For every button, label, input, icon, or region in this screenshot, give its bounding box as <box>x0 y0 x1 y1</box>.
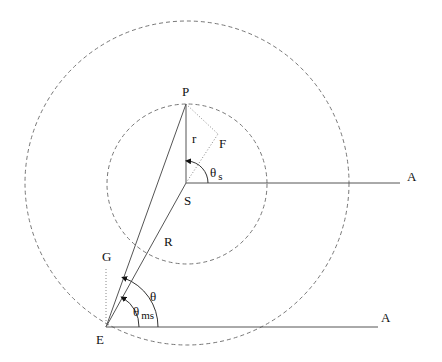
label-e: E <box>96 333 104 346</box>
label-s: S <box>184 194 191 207</box>
label-f: F <box>219 137 226 150</box>
dotted-p-f <box>186 104 218 134</box>
label-theta: θ <box>150 290 156 303</box>
label-theta-ms: θms <box>133 305 154 321</box>
theta-ms-symbol: θ <box>133 304 139 319</box>
label-a-top: A <box>407 170 416 183</box>
theta-s-symbol: θ <box>210 165 216 180</box>
label-a-bottom: A <box>381 311 390 324</box>
label-theta-s: θs <box>210 166 223 182</box>
label-g: G <box>102 250 111 263</box>
inner-orbit-circle <box>107 104 267 264</box>
orbital-geometry-diagram: P r F θs S A R G θ θms E A <box>0 0 442 362</box>
theta-s-subscript: s <box>218 170 222 182</box>
label-r-big: R <box>164 235 173 248</box>
label-p: P <box>182 85 189 98</box>
label-r: r <box>192 132 196 145</box>
theta-s-arc <box>188 161 208 183</box>
theta-ms-subscript: ms <box>141 309 154 321</box>
